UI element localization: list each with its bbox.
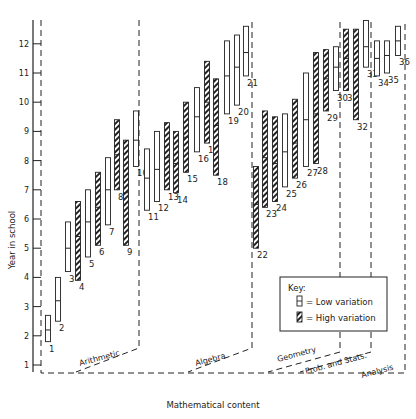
y-tick-label: 11 [19,69,29,78]
bar-label: 18 [217,177,228,187]
bar-label: 5 [89,259,94,269]
y-tick-label: 9 [24,127,29,136]
y-axis: 123456789101112 Year in school [7,20,41,372]
range-bar-chart: 123456789101112 Year in school Arithmeti… [0,0,416,419]
y-tick-label: 3 [24,303,29,312]
y-tick-label: 7 [24,186,29,195]
bar-label: 25 [286,189,297,199]
region-label-algebra: Algebra [194,351,226,368]
bar-label: 8 [118,192,123,202]
region-label-geometry: Geometry [276,345,317,364]
range-bar: 7 [106,158,115,237]
x-axis-title: Mathematical content [166,400,260,410]
bar-label: 19 [228,116,239,126]
region-label-analysis: Analysis [360,363,394,380]
legend: Key: = Low variation = High variation [280,277,387,331]
y-tick-label: 4 [24,273,29,282]
bar-label: 22 [257,250,268,260]
bar-label: 28 [317,166,328,176]
region-labels: Arithmetic Algebra Geometry Prob. and St… [78,345,394,380]
bar-label: 20 [238,107,249,117]
bar-label: 24 [276,203,287,213]
range-bar: 8 [115,120,124,202]
bar-label: 36 [399,57,410,67]
bar-label: 16 [198,154,209,164]
bar-label: 15 [187,174,198,184]
range-bar: 9 [124,140,133,257]
y-tick-label: 8 [24,157,29,166]
bar-label: 32 [357,122,368,132]
bar-label: 14 [177,195,188,205]
range-bar: 1 [46,315,55,353]
y-tick-label: 1 [24,361,29,370]
range-bar: 4 [76,201,85,292]
range-bar: 36 [396,26,410,67]
y-tick-label: 6 [24,215,29,224]
bar-label: 2 [59,323,64,333]
y-axis-title: Year in school [7,211,17,270]
svg-text:= High variation: = High variation [306,313,376,323]
bar-label: 11 [148,212,159,222]
bar-label: 4 [79,282,84,292]
bar-label: 35 [388,75,399,85]
bar-label: 21 [247,78,258,88]
range-bar: 3 [66,222,75,284]
bar-label: 3 [69,274,74,284]
y-tick-label: 5 [24,244,29,253]
y-tick-label: 10 [19,98,29,107]
hatched-bar-icon [297,312,302,322]
region-label-arithmetic: Arithmetic [78,348,121,367]
bar-label: 1 [49,344,54,354]
svg-text:= Low variation: = Low variation [306,297,373,307]
bar-label: 29 [327,113,338,123]
region-label-prob-stats: Prob. and Stats. [304,351,368,376]
range-bar: 6 [96,172,105,257]
bar-label: 26 [296,180,307,190]
range-bar: 21 [244,26,258,88]
bar-label: 9 [127,247,132,257]
y-axis-ticks: 123456789101112 [19,40,41,370]
y-tick-label: 12 [19,40,29,49]
bar-label: 7 [109,227,114,237]
legend-title: Key: [288,283,306,293]
range-bar: 2 [56,277,65,333]
range-bar: 5 [86,190,95,269]
legend-low-variation: = Low variation [297,296,373,307]
legend-high-variation: = High variation [297,312,376,323]
bar-label: 12 [158,203,169,213]
bar-label: 6 [99,247,104,257]
y-tick-label: 2 [24,332,29,341]
